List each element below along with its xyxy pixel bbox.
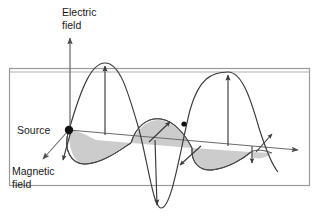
source-point bbox=[65, 126, 73, 134]
figure-canvas: Electric field Source Magnetic field bbox=[0, 0, 320, 219]
electromagnetic-wave-diagram: Electric field Source Magnetic field bbox=[0, 0, 320, 219]
magnetic-field-label-line1: Magnetic bbox=[12, 165, 55, 177]
magnetic-field-label-line2: field bbox=[12, 178, 31, 190]
electric-field-label-line2: field bbox=[62, 19, 81, 31]
background bbox=[0, 0, 320, 219]
electric-field-label-line1: Electric bbox=[62, 6, 96, 18]
magnetic-crest-node-dot bbox=[181, 121, 186, 126]
source-label: Source bbox=[17, 124, 50, 136]
